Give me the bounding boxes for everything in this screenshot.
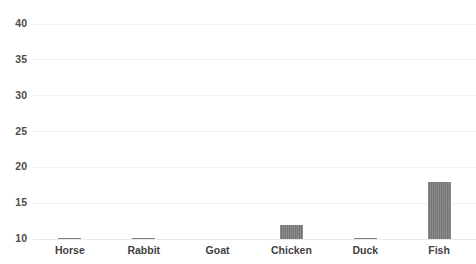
plot-area <box>33 24 476 239</box>
gridline <box>33 95 476 96</box>
y-axis-tick-label: 30 <box>0 90 27 101</box>
gridline <box>33 239 476 240</box>
y-axis-tick-label: 40 <box>0 18 27 29</box>
bar-rabbit <box>132 238 155 240</box>
gridline <box>33 131 476 132</box>
bar-duck <box>354 238 377 240</box>
bar-chicken <box>280 225 303 239</box>
gridline <box>33 167 476 168</box>
bar-fish <box>428 182 451 239</box>
gridline <box>33 24 476 25</box>
gridline <box>33 59 476 60</box>
bar-chart: 10152025303540 HorseRabbitGoatChickenDuc… <box>0 0 476 264</box>
x-axis-tick-label: Fish <box>394 244 476 256</box>
gridline <box>33 203 476 204</box>
y-axis-tick-label: 25 <box>0 126 27 137</box>
y-axis-tick-label: 10 <box>0 233 27 244</box>
bar-horse <box>58 238 81 240</box>
y-axis-tick-label: 15 <box>0 197 27 208</box>
chart-title <box>0 0 476 5</box>
y-axis-tick-label: 35 <box>0 54 27 65</box>
y-axis-tick-label: 20 <box>0 161 27 172</box>
